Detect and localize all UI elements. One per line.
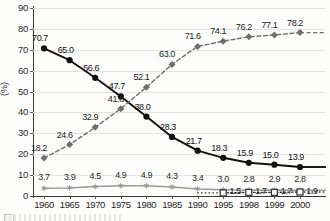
series-filled-diamond: [41, 29, 327, 161]
data-point-label: 3.9: [64, 172, 75, 182]
data-point-label: 4.9: [115, 170, 126, 180]
data-point-label: 32.9: [82, 112, 98, 122]
chart-container: (%) 0102030405060708090 1960196519701975…: [0, 0, 330, 221]
data-point-label: 15.9: [237, 148, 253, 158]
data-point-marker: [220, 155, 226, 161]
data-point-marker: [92, 75, 98, 81]
data-point-label: 52.1: [133, 72, 149, 82]
data-point-label: 2.8: [294, 174, 305, 184]
data-point-label: 78.2: [287, 18, 303, 28]
data-point-marker: [271, 162, 277, 168]
data-point-marker: [220, 38, 227, 45]
data-point-label: 18.3: [211, 143, 227, 153]
data-point-marker: [271, 31, 278, 38]
data-point-label: 63.0: [159, 49, 175, 59]
data-point-marker: [246, 189, 252, 195]
data-point-label: 38.0: [134, 102, 150, 112]
data-point-label: 2.8: [243, 174, 254, 184]
data-point-label: 1.5: [230, 186, 241, 196]
data-point-label: 3.4: [192, 173, 203, 183]
data-point-label: 13.9: [288, 152, 304, 162]
data-point-label: 3.0: [218, 174, 229, 184]
data-point-label: 21.7: [186, 136, 202, 146]
data-point-label: 56.6: [83, 63, 99, 73]
data-point-label: 18.2: [31, 143, 47, 153]
data-point-marker: [169, 134, 175, 140]
data-point-label: 76.2: [236, 22, 252, 32]
data-point-label: 1.9: [306, 186, 317, 196]
data-point-marker: [41, 155, 48, 162]
data-point-label: 4.3: [166, 171, 177, 181]
data-point-label: 77.1: [261, 20, 277, 30]
data-point-marker: [246, 160, 252, 166]
data-point-label: 2.9: [269, 174, 280, 184]
data-point-marker: [220, 190, 226, 196]
data-point-marker: [67, 57, 73, 63]
data-point-label: 15.0: [262, 150, 278, 160]
data-point-label: 28.3: [160, 122, 176, 132]
data-point-label: 1.7: [255, 186, 266, 196]
legend-strip-cropped: [4, 214, 124, 221]
data-point-label: 70.7: [32, 33, 48, 43]
data-point-label: 24.6: [57, 130, 73, 140]
data-point-label: 1.7: [281, 186, 292, 196]
data-point-label: 74.1: [210, 26, 226, 36]
data-point-label: 41.8: [108, 94, 124, 104]
data-point-marker: [297, 29, 304, 36]
data-point-label: 3.7: [38, 172, 49, 182]
data-point-label: 71.6: [185, 31, 201, 41]
data-point-label: 65.0: [58, 45, 74, 55]
data-point-label: 47.7: [109, 81, 125, 91]
data-point-marker: [271, 189, 277, 195]
data-point-label: 4.9: [141, 170, 152, 180]
data-point-marker: [195, 148, 201, 154]
data-point-marker: [245, 33, 252, 40]
data-point-marker: [297, 189, 303, 195]
data-point-marker: [41, 45, 47, 51]
data-point-marker: [143, 114, 149, 120]
legend-chip-cropped: [4, 214, 14, 221]
data-point-marker: [66, 141, 73, 148]
data-point-marker: [297, 164, 303, 170]
data-point-label: 4.5: [90, 171, 101, 181]
